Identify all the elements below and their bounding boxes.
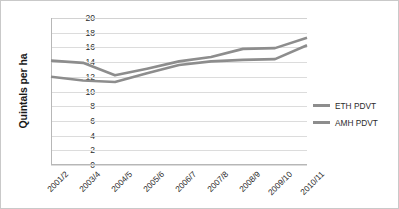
legend-item[interactable]: AMH PDVT <box>313 114 397 131</box>
legend-label: ETH PDVT <box>335 101 376 111</box>
series-lines <box>51 18 307 165</box>
series-line <box>51 38 307 75</box>
chart-container: Quintals per ha 20181614121086420 2001/2… <box>0 0 399 209</box>
legend-swatch-icon <box>313 104 330 107</box>
plot-area <box>51 18 307 165</box>
gridline <box>51 165 307 166</box>
legend-label: AMH PDVT <box>335 118 378 128</box>
chart-legend: ETH PDVTAMH PDVT <box>313 97 397 131</box>
y-axis-title: Quintals per ha <box>17 21 31 161</box>
legend-swatch-icon <box>313 121 330 124</box>
legend-item[interactable]: ETH PDVT <box>313 97 397 114</box>
series-line <box>51 45 307 82</box>
